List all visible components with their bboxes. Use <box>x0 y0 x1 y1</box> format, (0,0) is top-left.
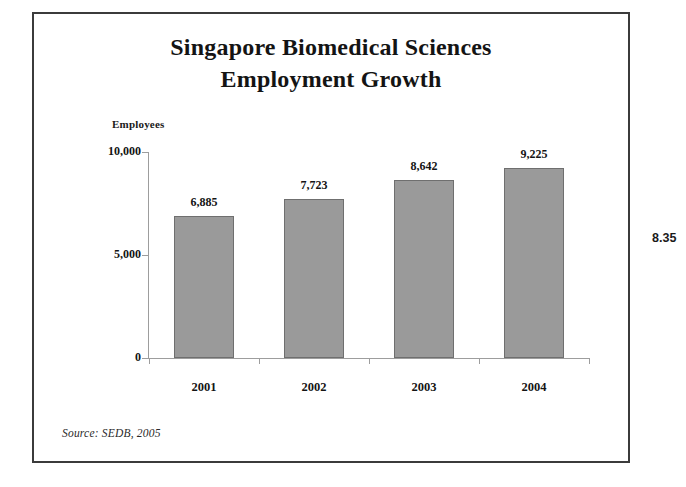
y-tick-label-0: 0 <box>135 350 141 365</box>
chart-title-line-1: Singapore Biomedical Sciences <box>34 32 628 64</box>
chart-title-line-2: Employment Growth <box>34 64 628 96</box>
x-tick-1 <box>259 358 260 364</box>
x-tick-2 <box>369 358 370 364</box>
x-tick-0 <box>149 358 150 364</box>
x-axis-labels: 2001 2002 2003 2004 <box>149 152 589 358</box>
figure-number: 8.35 <box>652 231 676 245</box>
x-label-2004: 2004 <box>522 380 547 395</box>
y-axis-title: Employees <box>112 118 165 130</box>
x-tick-3 <box>479 358 480 364</box>
chart-title: Singapore Biomedical Sciences Employment… <box>34 32 628 95</box>
y-tick-label-10000: 10,000 <box>108 144 141 159</box>
x-label-2002: 2002 <box>302 380 327 395</box>
y-tick-label-5000: 5,000 <box>114 247 141 262</box>
figure-frame: Singapore Biomedical Sciences Employment… <box>32 12 630 463</box>
x-label-2001: 2001 <box>192 380 217 395</box>
x-label-2003: 2003 <box>412 380 437 395</box>
x-tick-4 <box>589 358 590 364</box>
source-note: Source: SEDB, 2005 <box>62 427 161 439</box>
plot-area: 10,000 5,000 0 6,885 7,723 <box>112 142 602 367</box>
